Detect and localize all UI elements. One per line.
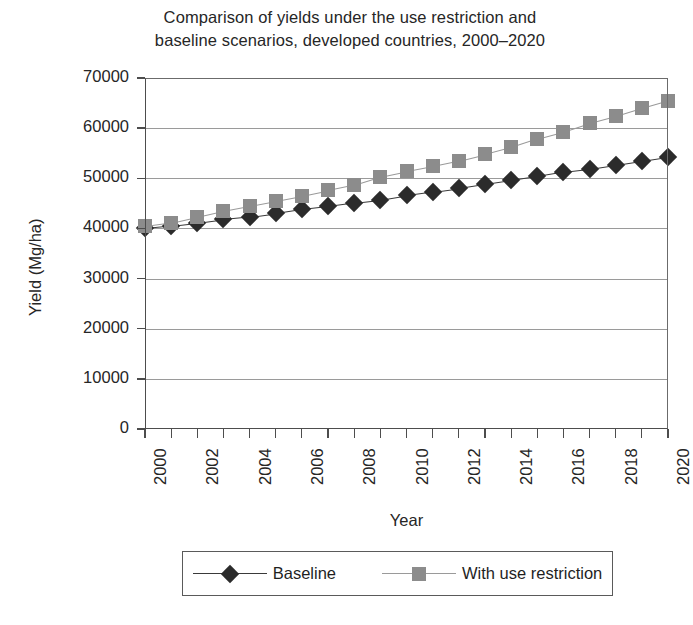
x-axis-tick: [615, 429, 616, 438]
legend-label: With use restriction: [462, 564, 602, 583]
legend-marker: [412, 567, 426, 581]
y-axis-tick: [137, 77, 145, 78]
x-axis-tick: [563, 429, 564, 438]
y-axis-tick: [137, 378, 145, 379]
x-axis-tick: [406, 429, 407, 438]
x-axis-tick-label: 2008: [360, 448, 379, 485]
y-axis-tick-label: 40000: [0, 217, 129, 236]
y-axis-tick-label: 50000: [0, 167, 129, 186]
x-axis-tick: [144, 429, 145, 438]
x-axis-tick: [275, 429, 276, 438]
x-axis-tick-label: 2004: [256, 448, 275, 485]
x-axis-tick: [223, 429, 224, 438]
x-axis-tick: [197, 429, 198, 438]
x-axis-tick: [641, 429, 642, 438]
x-axis-tick: [458, 429, 459, 438]
y-axis-tick-label: 70000: [0, 67, 129, 86]
y-axis-tick: [137, 178, 145, 179]
x-axis-tick: [380, 429, 381, 438]
chart-title: Comparison of yields under the use restr…: [40, 6, 660, 52]
x-axis-tick: [589, 429, 590, 438]
legend-swatch: [382, 564, 456, 584]
x-axis-tick-label: 2016: [569, 448, 588, 485]
legend-entries: BaselineWith use restriction: [183, 552, 612, 595]
y-axis-tick: [137, 278, 145, 279]
y-axis-tick-label: 10000: [0, 368, 129, 387]
chart-title-line-2: baseline scenarios, developed countries,…: [40, 29, 660, 52]
x-axis-tick: [301, 429, 302, 438]
legend-entry: Baseline: [193, 564, 336, 584]
x-axis-tick-label: 2020: [674, 448, 693, 485]
x-axis-tick: [171, 429, 172, 438]
x-axis-tick-label: 2002: [203, 448, 222, 485]
y-axis-tick-label: 60000: [0, 117, 129, 136]
x-axis-tick: [354, 429, 355, 438]
x-axis-tick: [432, 429, 433, 438]
x-axis-tick: [327, 429, 328, 438]
legend-entry: With use restriction: [382, 564, 602, 584]
x-axis-tick: [484, 429, 485, 438]
x-axis-tick-label: 2010: [413, 448, 432, 485]
y-axis-tick-label: 20000: [0, 318, 129, 337]
y-axis-tick: [137, 228, 145, 229]
x-axis-tick-label: 2000: [151, 448, 170, 485]
chart-legend: BaselineWith use restriction: [182, 551, 613, 596]
y-axis-tick: [137, 328, 145, 329]
plot-frame: [145, 78, 668, 429]
legend-marker: [221, 564, 239, 582]
x-axis-tick-label: 2014: [517, 448, 536, 485]
legend-swatch: [193, 564, 267, 584]
y-axis-tick: [137, 127, 145, 128]
x-axis-tick-label: 2006: [308, 448, 327, 485]
plot-area: [145, 78, 668, 429]
x-axis-label: Year: [145, 511, 668, 530]
x-axis-tick: [537, 429, 538, 438]
chart-title-line-1: Comparison of yields under the use restr…: [40, 6, 660, 29]
legend-label: Baseline: [273, 564, 336, 583]
x-axis-tick: [667, 429, 668, 438]
x-axis-tick: [249, 429, 250, 438]
x-axis-tick: [511, 429, 512, 438]
x-axis-tick-label: 2012: [465, 448, 484, 485]
y-axis-tick-label: 30000: [0, 268, 129, 287]
x-axis-tick-label: 2018: [622, 448, 641, 485]
y-axis-tick-label: 0: [0, 418, 129, 437]
